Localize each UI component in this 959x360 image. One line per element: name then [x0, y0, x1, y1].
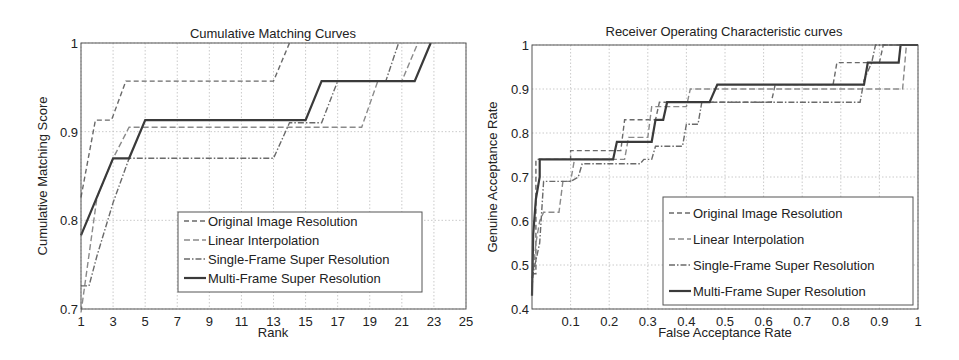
roc-ylabel: Genuine Acceptance Rate: [485, 101, 500, 252]
x-tick-label: 15: [298, 314, 312, 329]
x-tick-label: 3: [109, 314, 116, 329]
y-tick-label: 1: [522, 38, 529, 53]
x-tick-label: 0.1: [562, 314, 580, 329]
x-tick-label: 0.2: [600, 314, 618, 329]
figure-canvas: Cumulative Matching Curves 1357911131517…: [0, 0, 959, 360]
legend-label: Linear Interpolation: [693, 232, 804, 247]
x-tick-label: 1: [914, 314, 921, 329]
roc-xlabel: False Acceptance Rate: [658, 325, 792, 340]
cmc-legend: Original Image ResolutionLinear Interpol…: [178, 212, 422, 292]
legend-label: Single-Frame Super Resolution: [208, 252, 389, 267]
y-tick-label: 0.5: [511, 258, 529, 273]
y-tick-label: 0.9: [60, 125, 78, 140]
x-tick-label: 0.9: [870, 314, 888, 329]
x-tick-label: 5: [142, 314, 149, 329]
x-tick-label: 0.8: [832, 314, 850, 329]
series-line: [81, 43, 431, 235]
y-tick-label: 0.7: [60, 302, 78, 317]
cmc-chart: Cumulative Matching Curves 1357911131517…: [35, 26, 473, 340]
x-tick-label: 11: [235, 314, 249, 329]
x-tick-label: 23: [427, 314, 441, 329]
y-tick-label: 0.8: [511, 126, 529, 141]
x-tick-label: 25: [459, 314, 473, 329]
y-tick-label: 0.7: [511, 170, 529, 185]
x-tick-label: 1: [77, 314, 84, 329]
y-tick-label: 0.9: [511, 82, 529, 97]
cmc-ylabel: Cumulative Matching Score: [35, 97, 50, 256]
y-tick-label: 0.4: [511, 302, 529, 317]
x-tick-label: 17: [330, 314, 344, 329]
legend-label: Multi-Frame Super Resolution: [693, 284, 866, 299]
legend-label: Original Image Resolution: [693, 206, 843, 221]
legend-label: Multi-Frame Super Resolution: [208, 271, 381, 286]
legend-label: Single-Frame Super Resolution: [693, 258, 874, 273]
y-tick-label: 0.6: [511, 214, 529, 229]
x-tick-label: 21: [395, 314, 409, 329]
legend-label: Linear Interpolation: [208, 233, 319, 248]
legend-label: Original Image Resolution: [208, 214, 358, 229]
x-tick-label: 0.3: [639, 314, 657, 329]
y-tick-label: 0.8: [60, 213, 78, 228]
x-tick-label: 19: [363, 314, 377, 329]
y-tick-label: 1: [71, 36, 78, 51]
roc-chart: Receiver Operating Characteristic curves…: [485, 24, 922, 340]
roc-title: Receiver Operating Characteristic curves: [606, 24, 843, 39]
x-tick-label: 9: [206, 314, 213, 329]
roc-legend: Original Image ResolutionLinear Interpol…: [663, 197, 913, 305]
x-tick-label: 7: [174, 314, 181, 329]
cmc-title: Cumulative Matching Curves: [190, 26, 357, 41]
cmc-xlabel: Rank: [258, 325, 289, 340]
x-tick-label: 0.7: [793, 314, 811, 329]
